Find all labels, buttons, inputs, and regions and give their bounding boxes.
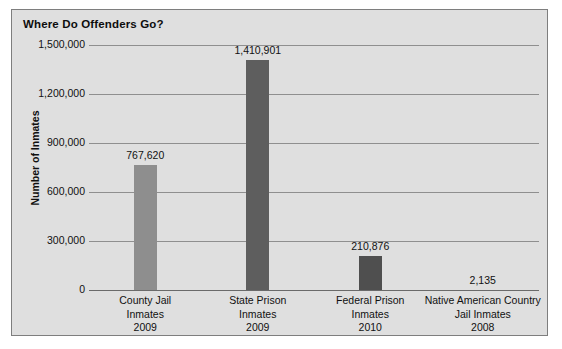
chart-title: Where Do Offenders Go? bbox=[23, 18, 164, 30]
x-axis-category-line: Jail Inmates bbox=[398, 308, 562, 322]
x-axis-category-line: 2008 bbox=[398, 321, 562, 335]
bar-value-label: 1,410,901 bbox=[183, 44, 333, 56]
x-axis-category-line: Native American Country bbox=[398, 294, 562, 308]
bar-value-label: 767,620 bbox=[70, 149, 220, 161]
x-axis-category-label: Native American CountryJail Inmates2008 bbox=[398, 294, 562, 335]
gridline-1200000 bbox=[89, 94, 539, 95]
y-tick-label: 600,000 bbox=[0, 185, 85, 197]
bar[interactable] bbox=[246, 60, 269, 290]
plot-area: 0300,000600,000900,0001,200,0001,500,000… bbox=[89, 45, 539, 290]
gridline-900000 bbox=[89, 143, 539, 144]
bar-value-label: 210,876 bbox=[295, 240, 445, 252]
bar[interactable] bbox=[134, 165, 157, 290]
y-tick-label: 900,000 bbox=[0, 136, 85, 148]
chart-figure: Where Do Offenders Go? Number of Inmates… bbox=[11, 9, 548, 336]
y-tick-label: 1,500,000 bbox=[0, 38, 85, 50]
y-axis-title: Number of Inmates bbox=[29, 88, 41, 228]
gridline-0 bbox=[89, 290, 539, 291]
y-tick-label: 1,200,000 bbox=[0, 87, 85, 99]
y-tick-label: 300,000 bbox=[0, 234, 85, 246]
bar[interactable] bbox=[359, 256, 382, 290]
bar-value-label: 2,135 bbox=[408, 274, 558, 286]
